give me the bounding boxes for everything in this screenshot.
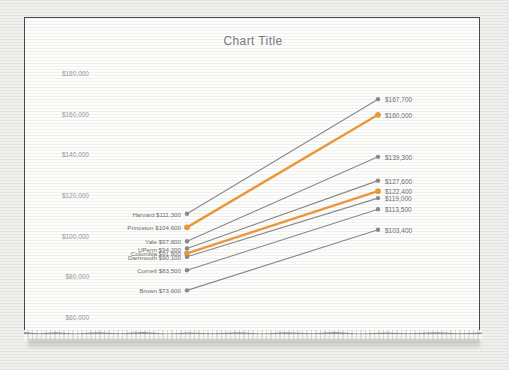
series-left-label: Cornell $83,500 (137, 267, 181, 274)
series-left-label: Harvard $111,300 (132, 210, 181, 217)
series-marker (184, 224, 190, 230)
series-marker (376, 97, 380, 101)
series-marker (375, 112, 381, 118)
series-left-label: Yale $97,800 (145, 238, 181, 245)
series-right-label: $167,700 (385, 96, 412, 103)
series-left-label: Dartmouth $90,100 (128, 253, 181, 260)
series-marker (376, 228, 380, 232)
series-line (187, 191, 378, 253)
series-right-label: $139,300 (385, 153, 412, 160)
series-right-label: $103,400 (385, 226, 412, 233)
series-line (187, 209, 378, 270)
slope-chart: Chart Title $180,000$160,000$140,000$120… (25, 18, 480, 335)
series-marker (376, 178, 380, 182)
series-right-label: $119,000 (385, 195, 412, 202)
series-left-label: Brown $73,600 (139, 287, 181, 294)
series-marker (376, 207, 380, 211)
series-right-label: $127,600 (385, 177, 412, 184)
series-line (187, 115, 378, 228)
chart-paper-sheet: Chart Title $180,000$160,000$140,000$120… (24, 17, 480, 335)
series-line (187, 157, 378, 241)
series-marker (185, 246, 189, 250)
series-marker (185, 255, 189, 259)
series-marker (185, 239, 189, 243)
series-right-label: $160,000 (385, 111, 412, 118)
series-left-label: Princeton $104,600 (127, 224, 181, 231)
series-marker (185, 268, 189, 272)
series-marker (375, 188, 381, 194)
series-marker (185, 288, 189, 292)
series-line (187, 198, 378, 257)
series-marker (376, 155, 380, 159)
paper-drop-shadow (28, 339, 480, 348)
series-line (187, 99, 378, 214)
series-marker (185, 212, 189, 216)
series-right-label: $113,500 (385, 206, 412, 213)
series-marker (376, 196, 380, 200)
